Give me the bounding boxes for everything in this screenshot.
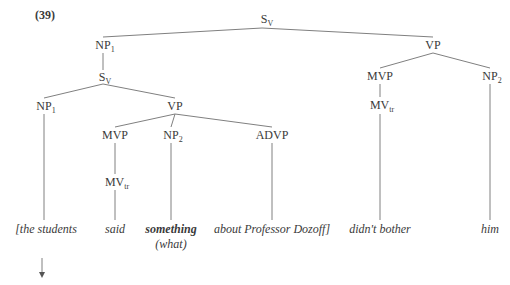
edge-vp-advp: [175, 114, 272, 127]
node-mvtr-left: MVtr: [105, 175, 129, 194]
node-np2-right: NP2: [482, 69, 501, 88]
node-np1-top: NP1: [95, 38, 114, 57]
node-mvtr-right: MVtr: [370, 98, 394, 117]
node-vp-inner: VP: [167, 99, 182, 113]
edge-vp-mvp: [115, 114, 175, 127]
edge-vp-np2-right: [433, 53, 490, 68]
node-np1-inner: NP1: [36, 99, 55, 118]
leaf-about-professor: about Professor Dozoff]: [214, 222, 330, 236]
leaf-what: (what): [155, 237, 186, 251]
node-mvp-right: MVP: [367, 69, 393, 83]
node-root-sv: SV: [261, 12, 273, 31]
edge-s-vp: [103, 84, 175, 98]
node-s-inner: SV: [99, 70, 111, 89]
node-mvp-left: MVP: [102, 128, 128, 142]
node-vp-top: VP: [425, 38, 440, 52]
leaf-something: something: [145, 222, 196, 236]
edge-root-np1: [103, 28, 262, 37]
leaf-didnt-bother: didn't bother: [349, 222, 411, 236]
edge-s-np1: [44, 84, 103, 98]
node-advp: ADVP: [256, 128, 289, 142]
edge-root-vp: [262, 28, 433, 37]
leaf-the-students: [the students: [15, 222, 77, 236]
leaf-him: him: [481, 222, 499, 236]
node-np2-left: NP2: [163, 128, 182, 147]
leaf-said: said: [105, 222, 125, 236]
edge-vp-np2: [171, 114, 175, 127]
arrow-down-icon: [39, 272, 45, 278]
edge-vp-mvp-right: [380, 53, 433, 68]
